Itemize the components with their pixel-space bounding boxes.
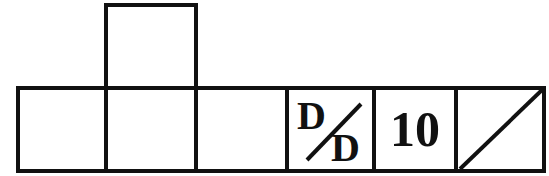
divider-2 xyxy=(194,86,198,173)
net-figure: D D 10 xyxy=(0,0,549,176)
cell-fraction: D D xyxy=(289,90,372,169)
top-box xyxy=(104,3,198,91)
cell-diagonal xyxy=(458,90,542,169)
divider-1 xyxy=(104,86,108,173)
diagonal-line xyxy=(458,90,542,169)
number-label: 10 xyxy=(376,104,454,154)
fraction-slash xyxy=(289,90,372,169)
cell-number: 10 xyxy=(376,90,454,169)
